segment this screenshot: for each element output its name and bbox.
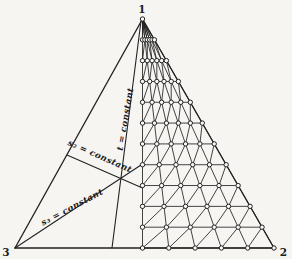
- mesh-node: [207, 163, 211, 167]
- mesh-node: [162, 79, 166, 83]
- mesh-node: [212, 225, 216, 229]
- mesh-node: [140, 183, 144, 187]
- triangle-coordinate-diagram: 1 2 3 t = constant s₂ = constant s₃ = co…: [0, 0, 292, 259]
- mesh-node: [246, 246, 250, 250]
- mesh-node: [162, 204, 166, 208]
- mesh-node: [272, 246, 276, 250]
- mesh-node: [164, 225, 168, 229]
- vertex-label-3: 3: [2, 246, 9, 258]
- mesh-node: [140, 121, 144, 125]
- mesh-node: [159, 100, 163, 104]
- vertex-label-2: 2: [280, 246, 287, 258]
- mesh-node: [248, 204, 252, 208]
- mesh-node: [140, 142, 144, 146]
- mesh-node: [212, 142, 216, 146]
- mesh-row-lines: [143, 40, 275, 248]
- mesh-node: [198, 183, 202, 187]
- mesh-node: [147, 79, 151, 83]
- mesh-node: [183, 142, 187, 146]
- mesh-node: [140, 204, 144, 208]
- mesh-node: [188, 121, 192, 125]
- mesh-node: [188, 100, 192, 104]
- mesh-node: [226, 204, 230, 208]
- mesh-node: [217, 183, 221, 187]
- mesh-node: [191, 163, 195, 167]
- mesh-node: [140, 79, 144, 83]
- mesh-node: [188, 225, 192, 229]
- mesh-node: [140, 246, 144, 250]
- mesh-node: [193, 246, 197, 250]
- mesh-node: [155, 58, 159, 62]
- mesh-node: [224, 163, 228, 167]
- mesh-node: [169, 100, 173, 104]
- mesh-node: [183, 204, 187, 208]
- mesh-node: [260, 225, 264, 229]
- mesh-node: [159, 183, 163, 187]
- mesh-node: [150, 100, 154, 104]
- mesh-node: [150, 58, 154, 62]
- mesh-node: [174, 163, 178, 167]
- mesh-node: [140, 225, 144, 229]
- mesh-node: [176, 79, 180, 83]
- mesh-node: [152, 38, 156, 42]
- mesh-node: [140, 100, 144, 104]
- mesh-node: [169, 79, 173, 83]
- mesh-node: [219, 246, 223, 250]
- mesh-node: [236, 225, 240, 229]
- mesh-node: [140, 58, 144, 62]
- mesh-node: [236, 183, 240, 187]
- mesh-node: [140, 163, 144, 167]
- mesh-diagonal-lines: [143, 19, 263, 248]
- mesh-node: [205, 204, 209, 208]
- vertex-label-1: 1: [138, 3, 145, 15]
- mesh-node: [176, 121, 180, 125]
- mesh-node: [145, 58, 149, 62]
- mesh-node: [164, 121, 168, 125]
- mesh-node: [159, 58, 163, 62]
- mesh-node: [179, 183, 183, 187]
- mesh-node: [179, 100, 183, 104]
- mesh-node: [152, 121, 156, 125]
- mesh-node: [155, 79, 159, 83]
- mesh-node: [164, 58, 168, 62]
- mesh-node: [157, 163, 161, 167]
- mesh-node: [155, 142, 159, 146]
- mesh-node: [167, 246, 171, 250]
- mesh-node: [169, 142, 173, 146]
- mesh-node: [200, 121, 204, 125]
- mesh-node: [140, 17, 144, 21]
- mesh-node: [198, 142, 202, 146]
